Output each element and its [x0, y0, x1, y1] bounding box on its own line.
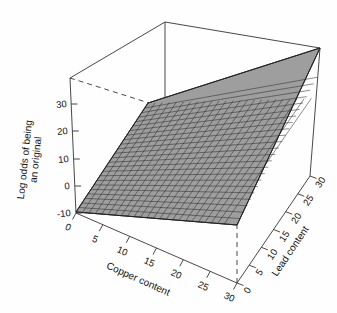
- y-tick-mark: [261, 247, 268, 250]
- box-edge-right-vertical: [310, 48, 320, 176]
- x-tick-label-5: 5: [91, 233, 100, 245]
- z-axis-ticks: [71, 104, 82, 213]
- x-axis-ticks: [73, 213, 238, 290]
- y-tick-label-25: 25: [301, 193, 316, 208]
- x-tick-mark: [126, 236, 130, 243]
- surface-plot-figure: 30 20 10 0 -10 Log odds of being an orig…: [0, 0, 337, 313]
- z-tick-label-10: 10: [58, 153, 70, 165]
- x-tick-label-30: 30: [222, 290, 236, 304]
- x-tick-label-0: 0: [64, 221, 73, 233]
- x-tick-label-25: 25: [196, 279, 210, 293]
- box-edge-top-left: [70, 22, 165, 78]
- x-axis-tick-labels: 0 5 10 15 20 25 30: [64, 221, 237, 304]
- z-tick-label-minus10: -10: [56, 207, 71, 219]
- x-axis: 0 5 10 15 20 25 30 Copper content: [64, 213, 237, 304]
- z-axis: 30 20 10 0 -10 Log odds of being an orig…: [15, 78, 82, 219]
- x-axis-title: Copper content: [105, 260, 172, 298]
- x-tick-label-20: 20: [169, 267, 183, 281]
- x-tick-mark: [153, 248, 157, 255]
- box-edge-top-right: [165, 22, 320, 48]
- x-tick-mark: [99, 225, 103, 232]
- perspective-canvas: 30 20 10 0 -10 Log odds of being an orig…: [0, 0, 337, 313]
- y-tick-mark: [237, 283, 244, 286]
- y-tick-label-20: 20: [289, 211, 304, 226]
- x-tick-mark: [180, 260, 184, 267]
- y-tick-mark: [274, 230, 281, 233]
- x-tick-mark: [207, 271, 211, 278]
- x-tick-label-15: 15: [142, 255, 156, 269]
- surface-mesh: [76, 48, 320, 225]
- y-tick-label-5: 5: [253, 267, 265, 278]
- z-axis-tick-labels: 30 20 10 0 -10: [56, 98, 72, 219]
- x-tick-mark: [234, 283, 238, 290]
- x-tick-label-10: 10: [115, 244, 129, 258]
- z-tick-label-0: 0: [64, 180, 70, 191]
- y-tick-label-0: 0: [241, 285, 253, 296]
- z-tick-label-30: 30: [56, 98, 68, 110]
- z-axis-line: [70, 78, 76, 213]
- surface-plane: [76, 48, 320, 225]
- x-tick-mark: [73, 213, 77, 220]
- z-axis-title: Log odds of being an original: [15, 120, 44, 200]
- y-tick-label-30: 30: [313, 175, 328, 190]
- z-tick-label-20: 20: [57, 125, 69, 137]
